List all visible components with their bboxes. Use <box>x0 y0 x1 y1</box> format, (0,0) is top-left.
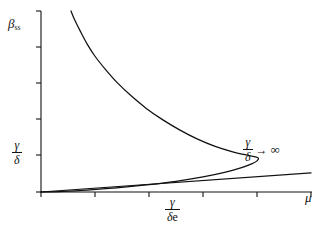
plot-background <box>0 0 325 232</box>
plot-canvas <box>0 0 325 232</box>
fraction-numerator: γ <box>243 136 253 148</box>
fraction-numerator: γ <box>165 196 180 208</box>
y-axis-label: βss <box>8 17 21 31</box>
fraction-denominator: δ <box>12 154 22 166</box>
infinity-symbol: ∞ <box>271 143 280 156</box>
figure-container: βss γ δ γ δe γ δ → ∞ μ <box>0 0 325 232</box>
denominator-e: e <box>173 210 178 224</box>
fraction-gamma-delta: γ δ <box>12 139 22 166</box>
fraction-gamma-delta-e: γ δe <box>165 196 180 223</box>
y-tick-label-gamma-over-delta: γ δ <box>12 139 22 166</box>
asymptote-annotation: γ δ → ∞ <box>243 136 280 163</box>
fraction-denominator: δ <box>243 151 253 163</box>
y-axis-label-subscript: ss <box>14 23 20 32</box>
x-tick-label-gamma-over-delta-e: γ δe <box>165 196 180 223</box>
right-arrow-icon: → <box>256 144 268 156</box>
x-axis-label: μ <box>305 191 312 204</box>
fraction-denominator: δe <box>165 211 180 223</box>
fraction-numerator: γ <box>12 139 22 151</box>
fraction-gamma-delta-annotation: γ δ <box>243 136 253 163</box>
